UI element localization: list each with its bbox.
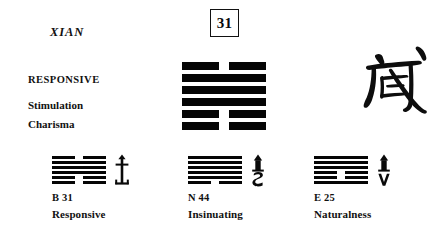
hexagram-line-6-broken — [52, 181, 106, 184]
related-hexagram-panel[interactable]: N 44 Insinuating — [188, 156, 316, 228]
hexagram-line-2-solid — [52, 161, 106, 164]
main-hexagram-lines — [182, 62, 266, 130]
related-hexagram-panel[interactable]: B 31 Responsive — [52, 156, 180, 228]
hexagram-line-4-solid — [182, 98, 266, 106]
hexagram-line-4-broken — [314, 171, 368, 174]
hexagram-number-box: 31 — [210, 9, 239, 37]
hexagram-keyword-main: RESPONSIVE — [28, 74, 100, 85]
related-hexagram-lines — [52, 156, 106, 184]
hexagram-line-6-broken — [188, 181, 242, 184]
related-hexagram-name: Naturalness — [314, 208, 371, 220]
hexagram-line-3-solid — [182, 86, 266, 94]
hexagram-line-4-solid — [52, 171, 106, 174]
related-hexagram-panel[interactable]: E 25 Naturalness — [314, 156, 442, 228]
hexagram-line-5-broken — [182, 110, 266, 118]
related-hexagram-lines — [314, 156, 368, 184]
hexagram-keyword-sub-2: Charisma — [28, 118, 74, 130]
related-hexagram-code: B 31 — [52, 192, 73, 203]
related-hexagram-lines — [188, 156, 242, 184]
chinese-character-xian — [354, 38, 438, 122]
hexagram-line-4-solid — [188, 171, 242, 174]
hexagram-line-5-broken — [314, 176, 368, 179]
hexagram-line-6-broken — [182, 122, 266, 130]
hexagram-line-2-solid — [182, 74, 266, 82]
hexagram-line-5-solid — [188, 176, 242, 179]
hexagram-reference-card: XIAN RESPONSIVE Stimulation Charisma 31 — [0, 0, 444, 234]
hexagram-line-1-broken — [52, 156, 106, 159]
hexagram-line-1-broken — [182, 62, 266, 70]
hexagram-keyword-sub-1: Stimulation — [28, 99, 83, 111]
hexagram-line-3-solid — [314, 166, 368, 169]
hexagram-line-3-solid — [188, 166, 242, 169]
hexagram-line-2-solid — [314, 161, 368, 164]
hexagram-number: 31 — [217, 16, 232, 31]
related-hexagram-name: Responsive — [52, 208, 106, 220]
hexagram-line-1-solid — [188, 156, 242, 159]
hexagram-line-1-solid — [314, 156, 368, 159]
hexagram-line-5-broken — [52, 176, 106, 179]
related-hexagram-name: Insinuating — [188, 208, 243, 220]
hexagram-line-3-solid — [52, 166, 106, 169]
related-hexagram-code: N 44 — [188, 192, 210, 203]
arrow-up-over-v-icon — [374, 154, 394, 188]
related-hexagram-code: E 25 — [314, 192, 335, 203]
hexagram-line-6-solid — [314, 181, 368, 184]
hexagram-pinyin-title: XIAN — [50, 25, 84, 40]
arrow-up-over-s-icon — [248, 154, 268, 188]
hexagram-line-2-solid — [188, 161, 242, 164]
anchor-icon — [112, 154, 132, 188]
